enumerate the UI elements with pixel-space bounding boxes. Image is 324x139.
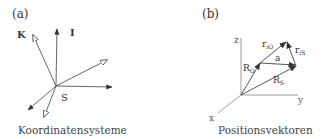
axis-K-arrow (33, 35, 56, 86)
panel-b-label: (b) (202, 7, 219, 21)
label-R-S: RS (273, 75, 284, 86)
label-r-iO: riO (262, 39, 273, 50)
label-S: S (61, 92, 68, 103)
axis-I-arrow (56, 29, 57, 86)
axis-label-z: z (234, 35, 239, 45)
x-axis (218, 95, 241, 113)
axis-right-arrow (56, 86, 112, 87)
vector-a (260, 63, 295, 65)
figure: (a) K I S Koordinatensysteme (b) z y x (0, 0, 324, 139)
axis-label-y: y (297, 95, 304, 105)
label-R-O: RO (243, 63, 255, 74)
label-I: I (70, 27, 75, 38)
caption-a: Koordinatensysteme (18, 124, 127, 136)
panel-a: (a) K I S Koordinatensysteme (12, 7, 127, 136)
label-K: K (17, 29, 26, 40)
axis-label-x: x (209, 113, 214, 123)
panel-a-label: (a) (12, 7, 29, 21)
caption-b: Positionsvektoren (218, 124, 313, 136)
label-r-iS: riS (295, 45, 305, 56)
panel-b: (b) z y x RO RS riO riS a Positionsvekto… (202, 7, 313, 136)
label-a: a (275, 53, 281, 63)
axis-S-hollow-arrow (56, 60, 107, 86)
